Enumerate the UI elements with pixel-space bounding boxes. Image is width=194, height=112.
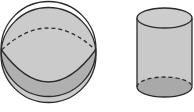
geometry-figure <box>0 0 194 112</box>
cylinder <box>137 8 192 97</box>
cylinder-top <box>137 8 192 28</box>
sphere <box>1 2 96 103</box>
